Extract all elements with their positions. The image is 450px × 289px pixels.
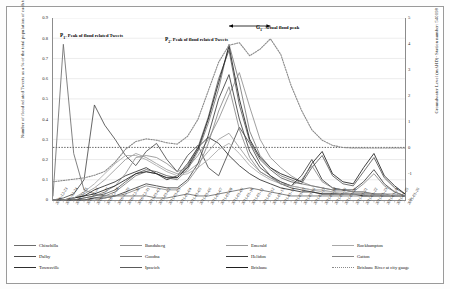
legend-item[interactable]: Chinchilla xyxy=(14,243,120,248)
y-tick-label: 0.9 xyxy=(26,15,48,20)
legend-swatch xyxy=(120,256,142,257)
legend-item[interactable]: Townsville xyxy=(14,265,120,270)
legend-item[interactable]: Brisbane xyxy=(226,265,332,270)
legend-label: Dalby xyxy=(39,254,50,259)
legend-swatch xyxy=(332,256,354,257)
legend-item[interactable]: Helidon xyxy=(226,254,332,259)
series-line-goodna xyxy=(53,44,405,200)
legend-item[interactable]: Gatton xyxy=(332,254,438,259)
series-line-helidon xyxy=(53,75,405,200)
y-tick-label: 0.8 xyxy=(26,36,48,41)
chart-canvas xyxy=(53,18,405,204)
annotation-p1: P1- Peak of flood related Tweets xyxy=(60,32,123,40)
legend-item[interactable]: Ipswich xyxy=(120,265,226,270)
legend-item[interactable]: Bundaberg xyxy=(120,243,226,248)
y-tick-label: 0.7 xyxy=(26,56,48,61)
series-line-chinchilla xyxy=(53,44,405,198)
y-axis-right-title: Groundwater Level (mAHD)- Station number… xyxy=(434,0,440,146)
legend-label: Bundaberg xyxy=(145,243,165,248)
legend-label: Rockhampton xyxy=(357,243,383,248)
annotation-p2: P2- Peak of flood related Tweets xyxy=(165,36,228,44)
legend-swatch xyxy=(332,267,354,268)
series-line-brisbane-river-at-city-gauge xyxy=(53,39,405,182)
legend-swatch xyxy=(14,267,36,268)
annotation-text: - Actual flood peak xyxy=(262,25,299,30)
legend-swatch xyxy=(120,245,142,246)
series-line-brisbane xyxy=(53,46,405,200)
legend-item[interactable]: Emerald xyxy=(226,243,332,248)
legend-swatch xyxy=(14,256,36,257)
legend-label: Brisbane xyxy=(251,265,267,270)
legend-swatch xyxy=(332,245,354,246)
legend-label: Ipswich xyxy=(145,265,160,270)
legend-label: Emerald xyxy=(251,243,267,248)
y2-tick-label: 4 xyxy=(408,41,430,46)
legend-swatch xyxy=(226,267,248,268)
chart-legend: ChinchillaBundabergEmeraldRockhamptonDal… xyxy=(14,240,438,280)
annotation-g1: G1- Actual flood peak xyxy=(256,24,299,32)
legend-item[interactable]: Rockhampton xyxy=(332,243,438,248)
legend-label: Chinchilla xyxy=(39,243,58,248)
y2-tick-label: 1 xyxy=(408,119,430,124)
series-line-ipswich xyxy=(53,50,405,200)
annotation-text: - Peak of flood related Tweets xyxy=(170,37,228,42)
y-tick-label: 0.6 xyxy=(26,76,48,81)
legend-swatch xyxy=(120,267,142,268)
chart-screenshot: Number of flood related Tweets as a % of… xyxy=(0,0,450,289)
legend-label: Townsville xyxy=(39,265,59,270)
legend-item[interactable]: Dalby xyxy=(14,254,120,259)
y2-tick-label: 5 xyxy=(408,15,430,20)
legend-label: Brisbane River at city gauge xyxy=(357,265,409,270)
arrow-head-left xyxy=(229,24,233,28)
y-tick-label: 0.5 xyxy=(26,96,48,101)
series-line-bundaberg xyxy=(53,73,405,200)
legend-label: Gatton xyxy=(357,254,370,259)
y-axis-left-title: Number of flood related Tweets as a % of… xyxy=(20,0,26,146)
legend-item[interactable]: Goodna xyxy=(120,254,226,259)
y2-tick-label: -1 xyxy=(408,171,430,176)
y2-tick-label: 0 xyxy=(408,145,430,150)
plot-area xyxy=(52,18,406,201)
y2-tick-label: 3 xyxy=(408,67,430,72)
y-tick-label: 0.3 xyxy=(26,137,48,142)
legend-item[interactable]: Brisbane River at city gauge xyxy=(332,265,438,270)
y-tick-label: 0.2 xyxy=(26,157,48,162)
y-tick-label: 0.4 xyxy=(26,117,48,122)
y2-tick-label: 2 xyxy=(408,93,430,98)
annotation-text: - Peak of flood related Tweets xyxy=(65,33,123,38)
legend-label: Helidon xyxy=(251,254,266,259)
legend-label: Goodna xyxy=(145,254,160,259)
y-tick-label: 0.1 xyxy=(26,177,48,182)
y-tick-label: 0 xyxy=(26,197,48,202)
legend-swatch xyxy=(226,256,248,257)
legend-swatch xyxy=(226,245,248,246)
legend-swatch xyxy=(14,245,36,246)
